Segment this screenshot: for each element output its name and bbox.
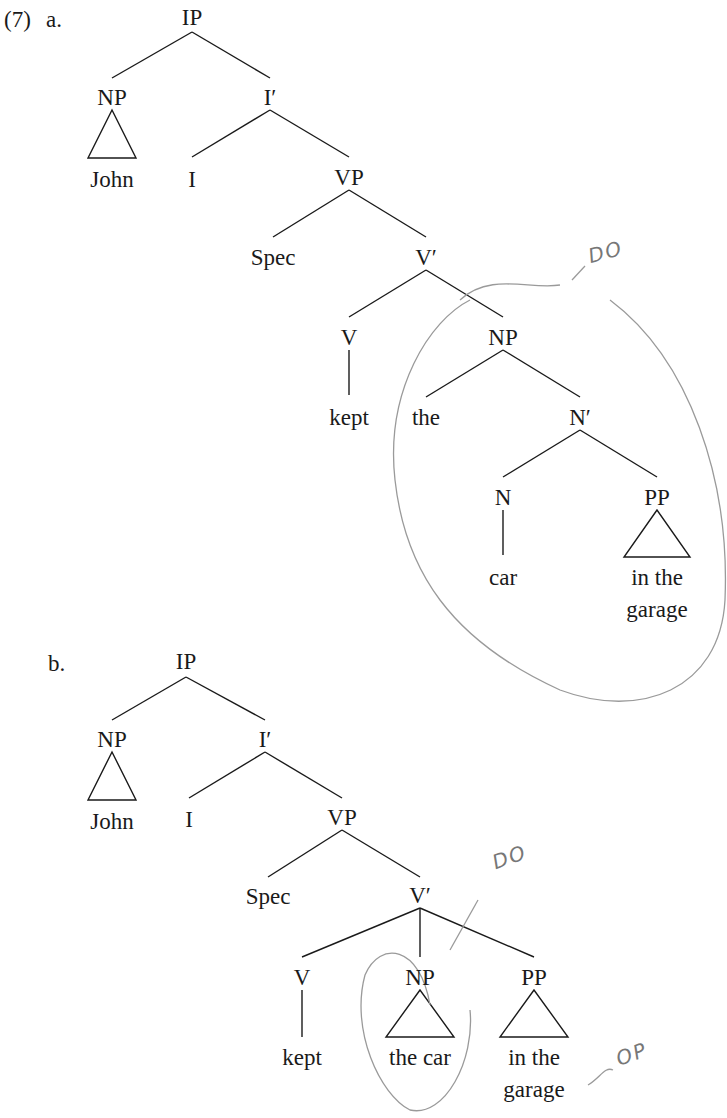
tree-a-label: a. [46,8,62,31]
leaf-pp-line2: garage [626,598,687,621]
node-i: I [188,168,196,191]
node-np-subject-b: NP [97,728,126,751]
node-v-bar-b: V′ [409,884,431,907]
leaf-pp-line1: in the [631,566,683,589]
leaf-pp-line1-b: in the [508,1046,560,1069]
leaf-kept-b: kept [282,1046,322,1069]
node-ip-b: IP [176,650,196,673]
node-i-b: I [185,808,193,831]
node-pp-b: PP [521,966,547,989]
node-v: V [341,326,358,349]
node-np-object: NP [488,326,517,349]
tree-b-label: b. [48,652,65,675]
leaf-pp-line2-b: garage [503,1078,564,1101]
node-pp: PP [644,486,670,509]
node-vp: VP [334,166,363,189]
leaf-kept: kept [329,406,369,429]
node-np-subject: NP [97,86,126,109]
node-i-bar: I′ [264,86,277,109]
node-spec: Spec [251,246,296,269]
syntax-tree-page: (7) a. IP NP John I′ I VP Spec V′ V kept… [0,0,727,1118]
node-ip: IP [182,6,202,29]
node-vp-b: VP [327,806,356,829]
leaf-car: car [489,566,517,589]
node-i-bar-b: I′ [259,728,272,751]
leaf-john: John [90,168,133,191]
node-spec-b: Spec [246,885,291,908]
leaf-the-car: the car [389,1046,451,1069]
node-n: N [495,486,512,509]
leaf-john-b: John [90,810,133,833]
node-n-bar: N′ [569,406,591,429]
example-number: (7) [4,8,31,31]
node-v-b: V [294,966,311,989]
leaf-the: the [412,406,440,429]
node-np-object-b: NP [405,966,434,989]
node-v-bar: V′ [415,246,437,269]
